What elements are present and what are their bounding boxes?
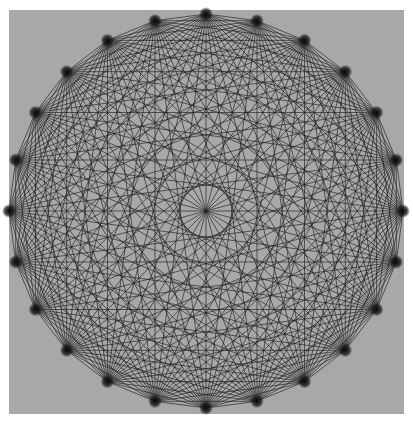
- graph-node: [60, 65, 74, 79]
- graph-node: [101, 33, 115, 47]
- graph-node: [28, 303, 42, 317]
- graph-node: [199, 7, 213, 21]
- figure-canvas: [0, 0, 413, 422]
- graph-node: [60, 343, 74, 357]
- graph-node: [389, 255, 403, 269]
- graph-node: [389, 153, 403, 167]
- graph-node: [250, 394, 264, 408]
- graph-node: [148, 394, 162, 408]
- graph-node: [338, 343, 352, 357]
- graph-node: [298, 375, 312, 389]
- graph-node: [370, 303, 384, 317]
- graph-node: [2, 204, 16, 218]
- graph-node: [101, 375, 115, 389]
- graph-node: [298, 33, 312, 47]
- graph-node: [148, 14, 162, 28]
- graph-node: [396, 204, 410, 218]
- mystic-rose-graphic: [0, 0, 413, 422]
- graph-node: [9, 255, 23, 269]
- graph-node: [28, 106, 42, 120]
- graph-node: [9, 153, 23, 167]
- graph-node: [370, 106, 384, 120]
- graph-node: [338, 65, 352, 79]
- graph-node: [250, 14, 264, 28]
- graph-node: [199, 401, 213, 415]
